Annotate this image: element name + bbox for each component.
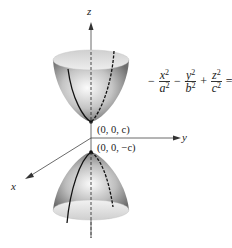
z-axis-label: z — [86, 5, 92, 17]
upper-sheet — [53, 50, 129, 124]
z-axis — [89, 22, 94, 52]
eq-op1: − — [174, 74, 181, 89]
lower-sheet — [53, 150, 129, 238]
lower-vertex-dot — [89, 150, 93, 154]
y-axis-label: y — [181, 131, 187, 143]
eq-term-y: y2 b2 — [185, 69, 196, 94]
upper-vertex-label: (0, 0, c) — [97, 124, 130, 136]
x-axis-label: x — [10, 180, 16, 192]
eq-term-x: x2 a2 — [159, 69, 170, 94]
y-axis-arrow-icon — [173, 136, 181, 141]
lower-vertex-label: (0, 0, −c) — [97, 142, 136, 154]
hyperboloid-equation: − x2 a2 − y2 b2 + z2 c2 = 1 — [146, 64, 232, 98]
eq-term-z: z2 c2 — [211, 69, 222, 94]
z-axis-arrow-icon — [89, 22, 94, 30]
hyperboloid-diagram: z y x (0, 0, c) (0, 0, −c) — [0, 0, 232, 248]
eq-lead-sign: − — [148, 74, 155, 89]
eq-op2: + — [200, 74, 207, 89]
x-axis-arrow-icon — [25, 173, 34, 180]
eq-equals: = — [226, 74, 232, 89]
